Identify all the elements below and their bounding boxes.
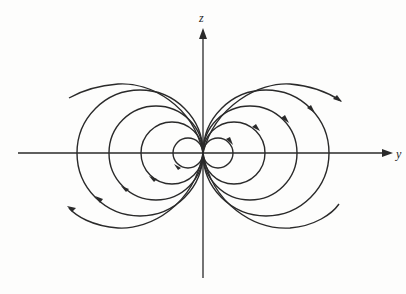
y-axis-arrow-icon [382, 149, 393, 157]
field-lines-right [203, 84, 341, 228]
field-arc-left-outer-top [69, 84, 203, 153]
direction-arrows-left [67, 164, 181, 212]
z-axis-label: z [198, 11, 204, 25]
field-lines-left [69, 84, 203, 228]
z-axis-arrow-icon [199, 28, 207, 39]
y-axis: y [18, 147, 402, 161]
y-axis-label: y [395, 147, 402, 161]
arrow-icon [95, 196, 103, 203]
arrow-icon [67, 206, 76, 212]
dipole-field-diagram: y z [0, 0, 406, 294]
field-arc-right-outer-top [203, 84, 341, 153]
field-arc-right-outer-bottom [203, 153, 339, 228]
arrow-icon [333, 95, 342, 102]
arrow-icon [252, 124, 260, 131]
